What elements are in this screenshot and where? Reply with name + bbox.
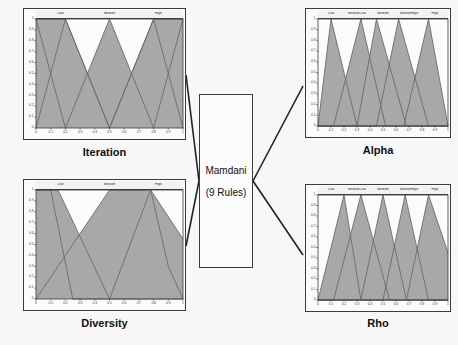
inference-engine-box: Mamdani (9 Rules)	[199, 94, 253, 268]
y-tick-label: 0.9	[23, 28, 34, 31]
y-tick-label: 0.6	[23, 232, 34, 235]
chart-panel-iteration: Low Medium High 00.10.20.30.40.50.60.70.…	[23, 8, 186, 140]
x-tick-label: 0.1	[44, 131, 58, 134]
mf-curves-diversity	[23, 179, 186, 311]
chart-title-iteration: Iteration	[23, 146, 186, 158]
y-tick-label: 0.8	[305, 39, 316, 42]
x-tick-label: 1	[176, 131, 190, 134]
x-tick-label: 0.1	[44, 302, 58, 305]
x-tick-label: 0.1	[324, 129, 338, 132]
y-tick-label: 0.9	[305, 204, 316, 207]
x-tick-label: 0.4	[88, 131, 102, 134]
chart-title-diversity: Diversity	[23, 317, 186, 329]
x-tick-label: 0.3	[73, 302, 87, 305]
mf-curves-iteration	[23, 8, 186, 140]
y-tick-label: 0.4	[23, 254, 34, 257]
y-tick-label: 0.8	[305, 214, 316, 217]
connector-engine-to-rho	[253, 181, 303, 255]
x-tick-label: 0.6	[389, 303, 403, 306]
x-tick-label: 1	[441, 129, 455, 132]
chart-panel-diversity: Low Medium High 00.10.20.30.40.50.60.70.…	[23, 179, 186, 311]
mf-curves-rho	[305, 184, 451, 312]
x-tick-label: 1	[176, 302, 190, 305]
y-tick-label: 0.2	[305, 103, 316, 106]
x-tick-label: 0.2	[337, 129, 351, 132]
connector-engine-to-alpha	[253, 86, 303, 181]
y-tick-label: 1	[305, 193, 316, 196]
y-tick-label: 0.1	[23, 286, 34, 289]
y-tick-label: 0.5	[305, 246, 316, 249]
y-tick-label: 0.1	[305, 288, 316, 291]
x-tick-label: 0	[311, 129, 325, 132]
x-tick-label: 1	[441, 303, 455, 306]
y-tick-label: 0.3	[305, 267, 316, 270]
fis-diagram: Low Medium High 00.10.20.30.40.50.60.70.…	[0, 0, 458, 345]
x-tick-label: 0.5	[376, 303, 390, 306]
x-tick-label: 0.5	[103, 302, 117, 305]
x-tick-label: 0.2	[58, 131, 72, 134]
y-tick-label: 0	[23, 297, 34, 300]
y-tick-label: 0.7	[23, 221, 34, 224]
y-tick-label: 0.6	[305, 60, 316, 63]
y-tick-label: 0.7	[305, 225, 316, 228]
x-tick-label: 0.9	[161, 131, 175, 134]
x-tick-label: 0.4	[88, 302, 102, 305]
x-tick-label: 0	[29, 302, 43, 305]
x-tick-label: 0.7	[132, 131, 146, 134]
y-tick-label: 0.8	[23, 39, 34, 42]
y-tick-label: 0.2	[305, 277, 316, 280]
y-tick-label: 0.2	[23, 104, 34, 107]
x-tick-label: 0.3	[73, 131, 87, 134]
connector-iteration-to-engine	[186, 75, 199, 181]
y-tick-label: 0.3	[23, 94, 34, 97]
x-tick-label: 0.4	[363, 129, 377, 132]
y-tick-label: 0.9	[23, 199, 34, 202]
y-tick-label: 0.3	[305, 92, 316, 95]
x-tick-label: 0.6	[389, 129, 403, 132]
y-tick-label: 0.8	[23, 210, 34, 213]
y-tick-label: 0.6	[23, 61, 34, 64]
y-tick-label: 0.2	[23, 275, 34, 278]
y-tick-label: 0	[23, 126, 34, 129]
y-tick-label: 0	[305, 298, 316, 301]
x-tick-label: 0.9	[161, 302, 175, 305]
y-tick-label: 0.6	[305, 235, 316, 238]
mf-curves-alpha	[305, 8, 451, 138]
x-tick-label: 0.6	[117, 131, 131, 134]
y-tick-label: 0.4	[305, 256, 316, 259]
y-tick-label: 0.1	[23, 115, 34, 118]
y-tick-label: 1	[23, 17, 34, 20]
x-tick-label: 0.2	[58, 302, 72, 305]
chart-panel-alpha: Low MediumLow Medium MediumHigh High 00.…	[305, 8, 451, 138]
engine-name: Mamdani	[205, 165, 246, 176]
x-tick-label: 0.8	[147, 131, 161, 134]
x-tick-label: 0.3	[350, 303, 364, 306]
x-tick-label: 0.7	[402, 303, 416, 306]
y-tick-label: 0.4	[23, 83, 34, 86]
x-tick-label: 0.6	[117, 302, 131, 305]
y-tick-label: 0.5	[23, 243, 34, 246]
x-tick-label: 0.2	[337, 303, 351, 306]
x-tick-label: 0.8	[147, 302, 161, 305]
x-tick-label: 0	[29, 131, 43, 134]
x-tick-label: 0.9	[428, 303, 442, 306]
x-tick-label: 0.8	[415, 303, 429, 306]
y-tick-label: 0.1	[305, 114, 316, 117]
y-tick-label: 0.7	[305, 49, 316, 52]
y-tick-label: 0.7	[23, 50, 34, 53]
y-tick-label: 1	[305, 17, 316, 20]
x-tick-label: 0.8	[415, 129, 429, 132]
x-tick-label: 0.9	[428, 129, 442, 132]
x-tick-label: 0.1	[324, 303, 338, 306]
y-tick-label: 0.9	[305, 28, 316, 31]
y-tick-label: 1	[23, 188, 34, 191]
y-tick-label: 0.5	[305, 71, 316, 74]
x-tick-label: 0	[311, 303, 325, 306]
chart-title-rho: Rho	[305, 317, 451, 329]
x-tick-label: 0.5	[103, 131, 117, 134]
y-tick-label: 0.3	[23, 265, 34, 268]
x-tick-label: 0.7	[402, 129, 416, 132]
y-tick-label: 0.5	[23, 72, 34, 75]
chart-panel-rho: Low MediumLow Medium MediumHigh High 00.…	[305, 184, 451, 312]
y-tick-label: 0	[305, 124, 316, 127]
